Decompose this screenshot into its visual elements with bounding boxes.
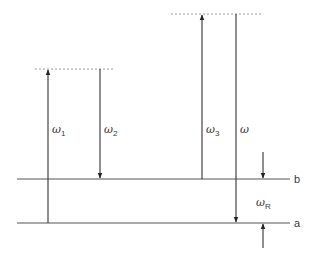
omega-r-label: ωR <box>256 196 271 211</box>
omega-label: ω <box>240 123 249 136</box>
level-a-label: a <box>294 217 301 229</box>
energy-level-diagram: ω1 ω2 ω3 ω ωR b a <box>0 0 317 259</box>
omega1-label: ω1 <box>52 123 66 138</box>
omega3-label: ω3 <box>206 123 220 138</box>
level-b-label: b <box>294 173 300 185</box>
omega2-label: ω2 <box>104 123 118 138</box>
